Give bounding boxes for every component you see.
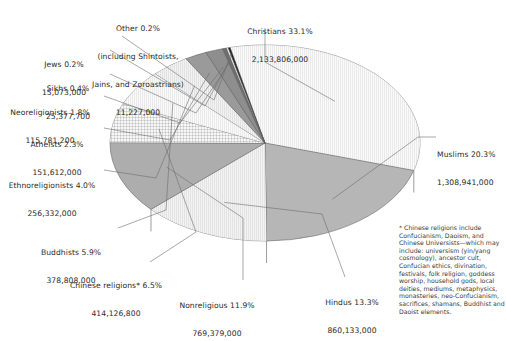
label-other-line3: Jains, and Zoroastrians)	[74, 80, 202, 89]
label-hindus-name: Hindus 13.3%	[308, 298, 396, 307]
label-chinese-religions-count: 414,126,800	[52, 309, 180, 318]
label-christians-name: Christians 33.1%	[206, 27, 354, 36]
label-christians-count: 2,133,806,000	[206, 55, 354, 64]
label-hindus: Hindus 13.3% 860,133,000	[308, 279, 396, 341]
label-muslims: Muslims 20.3% 1,308,941,000	[437, 131, 506, 206]
chinese-religions-footnote: * Chinese religions include Confucianism…	[399, 224, 505, 315]
label-other: Other 0.2% (including Shintoists, Jains,…	[74, 5, 202, 137]
label-other-count: 11,227,000	[74, 108, 202, 117]
label-christians: Christians 33.1% 2,133,806,000	[206, 8, 354, 83]
label-buddhists-count: 378,808,000	[21, 276, 121, 285]
label-muslims-count: 1,308,941,000	[437, 178, 506, 187]
label-hindus-count: 860,133,000	[308, 326, 396, 335]
label-other-line1: Other 0.2%	[74, 24, 202, 33]
label-ethnoreligionists-count: 256,332,000	[0, 209, 110, 218]
label-buddhists: Buddhists 5.9% 378,808,000	[21, 229, 121, 304]
label-other-line2: (including Shintoists,	[74, 52, 202, 61]
label-muslims-name: Muslims 20.3%	[437, 150, 506, 159]
label-atheists-count: 151,612,000	[9, 168, 105, 177]
label-buddhists-name: Buddhists 5.9%	[21, 248, 121, 257]
